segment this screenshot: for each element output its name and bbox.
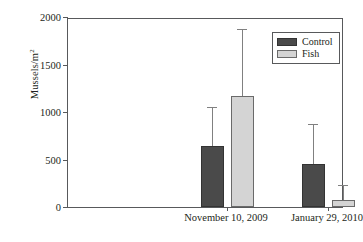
x-axis-label-0: November 10, 2009: [184, 212, 268, 223]
y-tick-label: 500: [45, 154, 61, 165]
y-tick-label: 1000: [40, 107, 61, 118]
legend-label-fish: Fish: [302, 48, 319, 60]
y-tick-mark: [63, 160, 68, 161]
error-cap-control-1: [308, 124, 318, 125]
chart-legend: ControlFish: [272, 32, 340, 64]
error-cap-fish-0: [237, 29, 247, 30]
y-tick-mark: [63, 207, 68, 208]
x-axis-label-1: January 29, 2010: [291, 212, 363, 223]
error-cap-control-0: [207, 107, 217, 108]
y-tick-mark: [63, 65, 68, 66]
y-tick-label: 1500: [40, 59, 61, 70]
legend-item-control: Control: [277, 36, 333, 48]
x-tick-mark: [328, 207, 329, 211]
y-axis-title: Mussels/m2: [28, 0, 41, 154]
x-tick-mark: [227, 207, 228, 211]
y-tick-label: 0: [56, 202, 61, 213]
bar-control-0: [201, 146, 224, 207]
error-cap-fish-1: [338, 185, 348, 186]
error-bar-control-1: [313, 125, 314, 164]
bar-control-1: [302, 164, 325, 207]
bar-fish-1: [332, 200, 355, 207]
legend-swatch-fish: [277, 50, 297, 58]
y-tick-mark: [63, 17, 68, 18]
y-tick-mark: [63, 112, 68, 113]
legend-item-fish: Fish: [277, 48, 333, 60]
error-bar-fish-0: [242, 30, 243, 96]
legend-label-control: Control: [302, 36, 333, 48]
legend-swatch-control: [277, 38, 297, 46]
error-bar-control-0: [212, 108, 213, 146]
y-axis-title-text: Mussels/m: [29, 53, 40, 99]
y-axis-title-superscript: 2: [28, 49, 36, 53]
y-tick-label: 2000: [40, 12, 61, 23]
bar-fish-0: [231, 96, 254, 207]
error-bar-fish-1: [343, 186, 344, 200]
